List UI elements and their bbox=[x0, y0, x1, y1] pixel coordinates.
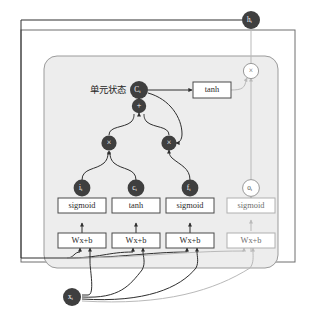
affine-box-4-label: Wx+b bbox=[240, 236, 261, 245]
node-input-gate: it bbox=[74, 180, 91, 197]
lstm-diagram: sigmoid tanh sigmoid sigmoid Wx+b Wx+b W… bbox=[0, 0, 317, 329]
affine-box-4: Wx+b bbox=[227, 233, 275, 248]
node-output: ht bbox=[242, 11, 260, 29]
cell-state-caption: 单元状态 bbox=[90, 84, 126, 95]
node-cell-state: Ct bbox=[130, 81, 148, 99]
operator-mul-forget: × bbox=[161, 135, 176, 150]
operator-mul-input: × bbox=[101, 135, 116, 150]
affine-box-2-label: Wx+b bbox=[125, 236, 146, 245]
operator-add: + bbox=[132, 99, 146, 113]
activation-box-3: sigmoid bbox=[166, 198, 214, 213]
node-input: xt bbox=[63, 288, 81, 306]
node-output-gate: ot bbox=[243, 180, 260, 197]
affine-box-2: Wx+b bbox=[112, 233, 160, 248]
operator-mul-input-symbol: × bbox=[107, 138, 112, 147]
activation-box-3-label: sigmoid bbox=[177, 201, 205, 210]
operator-mul-output-symbol: × bbox=[249, 66, 253, 75]
activation-box-1: sigmoid bbox=[58, 198, 106, 213]
operator-add-symbol: + bbox=[137, 101, 142, 110]
affine-box-3-label: Wx+b bbox=[179, 236, 200, 245]
activation-box-4: sigmoid bbox=[227, 198, 275, 213]
node-candidate: ct bbox=[128, 180, 145, 197]
node-forget-gate: ft bbox=[182, 180, 199, 197]
activation-box-2: tanh bbox=[112, 198, 160, 213]
tanh-top-box-label: tanh bbox=[205, 85, 220, 94]
operator-mul-output: × bbox=[243, 63, 258, 78]
activation-box-4-label: sigmoid bbox=[238, 201, 266, 210]
activation-box-1-label: sigmoid bbox=[69, 201, 97, 210]
operator-mul-forget-symbol: × bbox=[167, 138, 172, 147]
affine-box-1: Wx+b bbox=[58, 233, 106, 248]
affine-box-3: Wx+b bbox=[166, 233, 214, 248]
figure-canvas: sigmoid tanh sigmoid sigmoid Wx+b Wx+b W… bbox=[0, 0, 317, 329]
tanh-top-box: tanh bbox=[193, 82, 231, 98]
activation-box-2-label: tanh bbox=[129, 201, 144, 210]
affine-box-1-label: Wx+b bbox=[71, 236, 92, 245]
